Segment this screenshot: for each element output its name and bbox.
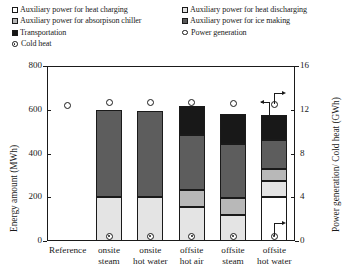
y-axis-left-tick — [47, 110, 51, 111]
y-axis-left-tick-label: 0 — [38, 236, 43, 245]
bar-segment — [220, 198, 246, 214]
legend-item: Auxiliary power for ice making — [182, 16, 307, 28]
bar-onsite-hot-water — [137, 111, 163, 241]
y-axis-left-title: Energy amount (MWh) — [9, 145, 19, 232]
datapoint-cold-heat — [230, 233, 237, 240]
bar-segment — [261, 140, 287, 168]
legend-item: Auxiliary power for absorpison chiller — [12, 16, 141, 28]
y-axis-right-tick — [295, 241, 299, 242]
y-axis-left-tick-label: 600 — [29, 105, 43, 114]
legend-item: Power generation — [182, 27, 307, 39]
bar-onsite-steam — [96, 110, 122, 241]
y-axis-right-tick-label: 8 — [300, 149, 305, 158]
datapoint-power-generation — [64, 102, 71, 109]
legend-item-label: Auxiliary power for heat charging — [20, 6, 128, 14]
datapoint-power-generation — [188, 99, 195, 106]
y-axis-left-tick-label: 200 — [29, 192, 43, 201]
datapoint-cold-heat — [147, 233, 154, 240]
y-axis-left-tick-label: 800 — [29, 61, 43, 70]
circle-open-icon — [182, 29, 189, 36]
y-axis-right-tick — [291, 110, 295, 111]
square-light-icon — [182, 7, 188, 13]
diamond-open-icon — [12, 41, 19, 48]
legend-item: Auxiliary power for heat charging — [12, 4, 141, 16]
y-axis-left-tick-label: 400 — [29, 149, 43, 158]
bar-offsite-steam — [220, 114, 246, 241]
y-axis-right-tick — [291, 154, 295, 155]
legend-item-label: Auxiliary power for ice making — [190, 17, 290, 25]
bar-segment — [179, 135, 205, 190]
legend-column-left: Auxiliary power for heat chargingAuxilia… — [12, 4, 141, 50]
legend-column-right: Auxiliary power for heat dischargingAuxi… — [182, 4, 307, 39]
bar-segment — [261, 115, 287, 140]
square-black-icon — [12, 30, 18, 36]
legend-item-label: Transportation — [20, 29, 66, 37]
chart-legend: Auxiliary power for heat chargingAuxilia… — [0, 4, 346, 52]
y-axis-right-tick-label: 0 — [300, 236, 305, 245]
bar-segment — [179, 190, 205, 208]
y-axis-right-tick-label: 16 — [300, 61, 309, 70]
bar-segment — [220, 114, 246, 144]
y-axis-left-tick — [47, 197, 51, 198]
legend-item-label: Cold heat — [21, 40, 52, 48]
y-axis-right-tick-label: 4 — [300, 192, 305, 201]
bar-segment — [220, 144, 246, 199]
datapoint-power-generation — [147, 99, 154, 106]
chart-figure: Auxiliary power for heat chargingAuxilia… — [0, 0, 346, 280]
square-dark-icon — [182, 18, 188, 24]
bar-segment — [261, 169, 287, 181]
y-axis-left-tick — [47, 154, 51, 155]
bar-offsite-hot-air — [179, 106, 205, 241]
bar-segment — [261, 181, 287, 197]
plot-area: 0200400600800 0481216 Referenceonsiteste… — [47, 66, 295, 241]
datapoint-power-generation — [230, 100, 237, 107]
bar-series-container — [47, 66, 295, 241]
legend-item: Transportation — [12, 27, 141, 39]
legend-item-label: Auxiliary power for absorpison chiller — [20, 17, 141, 25]
y-axis-right-title: Power generation/ Cold heat (GWh) — [331, 97, 341, 232]
bar-segment — [96, 110, 122, 198]
legend-item: Cold heat — [12, 39, 141, 51]
datapoint-cold-heat — [106, 233, 113, 240]
bar-segment — [137, 111, 163, 197]
legend-item-label: Auxiliary power for heat discharging — [190, 6, 307, 14]
legend-item: Auxiliary power for heat discharging — [182, 4, 307, 16]
square-mid-icon — [12, 18, 18, 24]
datapoint-power-generation — [106, 99, 113, 106]
y-axis-left-tick — [43, 241, 47, 242]
x-axis-label: offsitehot water — [248, 245, 301, 266]
y-axis-right-tick — [291, 197, 295, 198]
y-axis-right-tick-label: 12 — [300, 105, 309, 114]
square-open-icon — [12, 7, 18, 13]
y-axis-right-tick — [295, 66, 299, 67]
bar-segment — [179, 106, 205, 134]
legend-item-label: Power generation — [191, 29, 247, 37]
y-axis-left-tick — [43, 66, 47, 67]
datapoint-cold-heat — [188, 233, 195, 240]
